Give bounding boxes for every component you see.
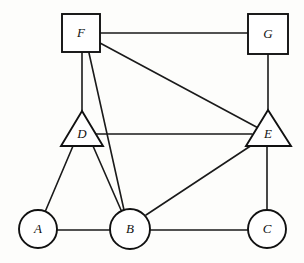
node-label-d: D: [76, 126, 87, 141]
node-label-b: B: [126, 221, 134, 236]
node-label-a: A: [33, 221, 42, 236]
node-label-e: E: [263, 126, 272, 141]
node-label-f: F: [76, 25, 86, 40]
graph-diagram: FGDEABC: [0, 0, 304, 263]
node-label-g: G: [263, 26, 273, 41]
node-label-c: C: [263, 221, 272, 236]
